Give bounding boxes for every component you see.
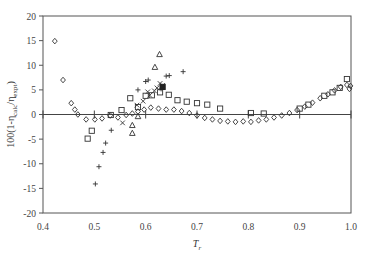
- y-tick-label: 5: [31, 85, 36, 95]
- x-tick-label: 0.6: [140, 222, 152, 232]
- y-tick-label: 0: [31, 110, 36, 120]
- x-tick-label: 0.9: [294, 222, 306, 232]
- x-tick-label: 0.5: [88, 222, 100, 232]
- y-tick-label: -5: [28, 135, 36, 145]
- series-filled-square: [160, 84, 165, 89]
- y-tick-label: 10: [27, 61, 37, 71]
- y-tick-label: -10: [23, 159, 36, 169]
- y-axis-ticks: 20151050-5-10-15-20: [23, 12, 43, 219]
- x-axis-ticks: 0.40.50.60.70.80.91.0: [37, 222, 357, 232]
- x-tick-label: 0.4: [37, 222, 49, 232]
- data-point-filled-square: [160, 84, 165, 89]
- x-tick-label: 1.0: [345, 222, 357, 232]
- y-axis-title: 100(1-ηcalc/ηexpt): [5, 81, 19, 148]
- y-tick-label: 20: [27, 12, 37, 22]
- y-tick-label: -20: [23, 209, 36, 219]
- x-tick-label: 0.8: [242, 222, 254, 232]
- scatter-chart: 20151050-5-10-15-20 0.40.50.60.70.80.91.…: [0, 0, 366, 255]
- x-tick-label: 0.7: [191, 222, 203, 232]
- y-tick-label: -15: [23, 184, 36, 194]
- y-tick-label: 15: [27, 36, 37, 46]
- x-axis-title: Tr: [193, 238, 202, 252]
